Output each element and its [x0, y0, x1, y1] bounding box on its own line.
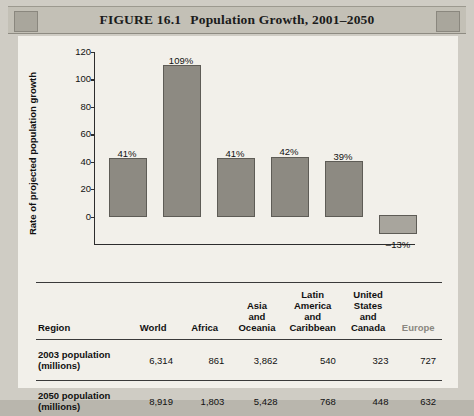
- col-header-world-line1: World: [129, 322, 176, 333]
- table-header-row: Region World Africa Asia and Oceania: [36, 283, 442, 340]
- y-tick-120: 120: [65, 46, 91, 57]
- row-label-2050-line2: (millions): [38, 401, 123, 412]
- col-header-asia-line1: Asia: [232, 300, 281, 311]
- col-header-united-states-canada: United States and Canada: [342, 283, 395, 340]
- bar-label-europe: –13%: [375, 239, 421, 250]
- y-tickmark-100: [91, 79, 95, 80]
- y-axis-label: Rate of projected population growth: [24, 78, 42, 228]
- bar-world: [109, 158, 147, 216]
- y-tickmark-120: [91, 52, 95, 53]
- figure-number: FIGURE 16.1: [100, 12, 182, 27]
- bar-label-africa: 109%: [159, 55, 203, 66]
- cell-2003-world: 6,314: [127, 340, 178, 381]
- y-tickmark-80: [91, 107, 95, 108]
- col-header-world: World: [127, 283, 178, 340]
- cell-2003-asia: 3,862: [230, 340, 283, 381]
- y-tick-40: 40: [65, 156, 91, 167]
- col-header-asia-oceania: Asia and Oceania: [230, 283, 283, 340]
- y-tickmark-40: [91, 162, 95, 163]
- y-tick-80: 80: [65, 101, 91, 112]
- bar-label-latin-america: 42%: [267, 146, 311, 157]
- y-tickmark-0: [91, 217, 95, 218]
- col-header-latin-line2: America: [286, 300, 340, 311]
- cell-2003-europe: 727: [394, 340, 442, 381]
- col-header-latin-line1: Latin: [286, 289, 340, 300]
- col-header-us-line4: Canada: [344, 322, 393, 333]
- bar-label-asia-oceania: 41%: [213, 148, 257, 159]
- col-header-africa-line1: Africa: [181, 322, 228, 333]
- population-table: Region World Africa Asia and Oceania: [36, 282, 442, 416]
- bar-chart: Rate of projected population growth 120 …: [18, 40, 458, 276]
- y-tickmark-60: [91, 134, 95, 135]
- col-header-latin-line3: and: [286, 311, 340, 322]
- bar-latin-america: [271, 157, 309, 217]
- col-header-us-line3: and: [344, 311, 393, 322]
- row-label-2003: 2003 population (millions): [36, 340, 127, 381]
- y-tick-0: 0: [65, 211, 91, 222]
- plot-area: 120 100 80 60 40 20 0 41% 109%: [94, 52, 415, 245]
- cell-2050-world: 8,919: [127, 381, 178, 416]
- col-header-us-line1: United: [344, 289, 393, 300]
- col-header-latin-america: Latin America and Caribbean: [284, 283, 342, 340]
- row-label-2050: 2050 population (millions): [36, 381, 127, 416]
- title-ornament-right-icon: [436, 11, 460, 32]
- figure-title-bar: FIGURE 16.1Population Growth, 2001–2050: [8, 6, 466, 34]
- table-row: 2003 population (millions) 6,314 861 3,8…: [36, 340, 442, 381]
- row-label-2003-line1: 2003 population: [38, 349, 123, 360]
- y-tick-100: 100: [65, 73, 91, 84]
- col-header-asia-line3: Oceania: [232, 322, 281, 333]
- col-header-europe-line1: Europe: [396, 322, 440, 333]
- row-label-2050-line1: 2050 population: [38, 390, 123, 401]
- cell-2003-us: 323: [342, 340, 395, 381]
- bar-united-states-canada: [325, 161, 363, 217]
- col-header-latin-line4: Caribbean: [286, 322, 340, 333]
- cell-2050-europe: 632: [394, 381, 442, 416]
- cell-2050-africa: 1,803: [179, 381, 230, 416]
- bar-label-world: 41%: [105, 148, 149, 159]
- cell-2003-latin: 540: [284, 340, 342, 381]
- figure-title-text: Population Growth, 2001–2050: [190, 12, 374, 27]
- bar-label-united-states-canada: 39%: [321, 151, 365, 162]
- cell-2050-latin: 768: [284, 381, 342, 416]
- bar-africa: [163, 65, 201, 216]
- cell-2050-us: 448: [342, 381, 395, 416]
- bar-europe: [379, 215, 417, 235]
- title-ornament-left-icon: [14, 11, 38, 32]
- col-header-region: Region: [36, 283, 127, 340]
- y-axis-label-text: Rate of projected population growth: [28, 71, 39, 234]
- bar-asia-oceania: [217, 158, 255, 216]
- y-tick-60: 60: [65, 128, 91, 139]
- figure-card: Rate of projected population growth 120 …: [18, 36, 458, 388]
- y-tick-20: 20: [65, 183, 91, 194]
- figure-title: FIGURE 16.1Population Growth, 2001–2050: [100, 12, 375, 28]
- col-header-asia-line2: and: [232, 311, 281, 322]
- row-label-2003-line2: (millions): [38, 360, 123, 371]
- y-tickmark-20: [91, 189, 95, 190]
- table-row: 2050 population (millions) 8,919 1,803 5…: [36, 381, 442, 416]
- cell-2003-africa: 861: [179, 340, 230, 381]
- col-header-us-line2: States: [344, 300, 393, 311]
- col-header-africa: Africa: [179, 283, 230, 340]
- cell-2050-asia: 5,428: [230, 381, 283, 416]
- col-header-europe: Europe: [394, 283, 442, 340]
